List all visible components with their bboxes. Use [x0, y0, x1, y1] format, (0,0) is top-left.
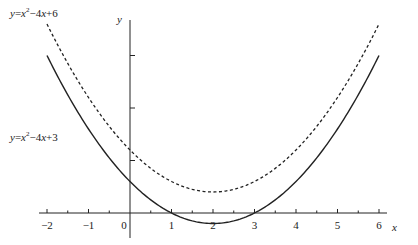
- x-tick-label: 4: [293, 219, 299, 231]
- x-tick-label: 3: [252, 219, 258, 231]
- curve-upper-dashed: [47, 24, 379, 192]
- curve-lower-solid: [47, 56, 379, 224]
- x-tick-label: 1: [169, 219, 175, 231]
- y-axis-label: y: [117, 13, 122, 25]
- x-tick-label: 6: [376, 219, 382, 231]
- plot-area: [0, 0, 418, 245]
- axes: [39, 20, 387, 238]
- curves: [47, 24, 379, 224]
- x-tick-label: 0: [121, 219, 127, 231]
- x-tick-label: −1: [83, 219, 95, 231]
- x-tick-label: 5: [335, 219, 341, 231]
- x-tick-label: −2: [41, 219, 53, 231]
- label-upper-curve: y=x2−4x+6: [10, 6, 58, 19]
- label-lower-curve: y=x2−4x+3: [10, 130, 58, 143]
- x-tick-label: 2: [210, 219, 216, 231]
- x-axis-label: x: [392, 221, 397, 233]
